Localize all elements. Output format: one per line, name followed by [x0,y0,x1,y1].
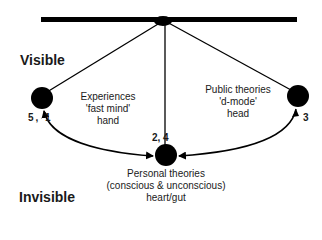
bob-bottom [155,144,177,166]
zone-visible-label: Visible [20,52,65,68]
node-left-label: Experiences 'fast mind' hand [68,91,148,127]
bob-right [287,85,309,107]
node-bottom-line-3: heart/gut [101,192,231,204]
node-right-line-1: Public theories [194,84,282,96]
node-right-line-2: 'd-mode' [194,96,282,108]
string-right [165,21,291,90]
node-bottom-label: Personal theories (conscious & unconscio… [101,168,231,204]
arrowhead-right-up [292,109,299,117]
node-bottom-line-2: (conscious & unconscious) [101,180,231,192]
node-left-line-3: hand [68,115,148,127]
step-label-bottom: 2, 4 [152,132,169,143]
step-label-left: 5, 1 [28,112,53,123]
node-right-line-3: head [194,108,282,120]
node-right-label: Public theories 'd-mode' head [194,84,282,120]
zone-invisible-label: Invisible [19,189,75,205]
node-left-line-1: Experiences [68,91,148,103]
node-left-line-2: 'fast mind' [68,103,148,115]
node-bottom-line-1: Personal theories [101,168,231,180]
step-label-right: 3 [303,112,309,123]
bob-left [31,87,53,109]
